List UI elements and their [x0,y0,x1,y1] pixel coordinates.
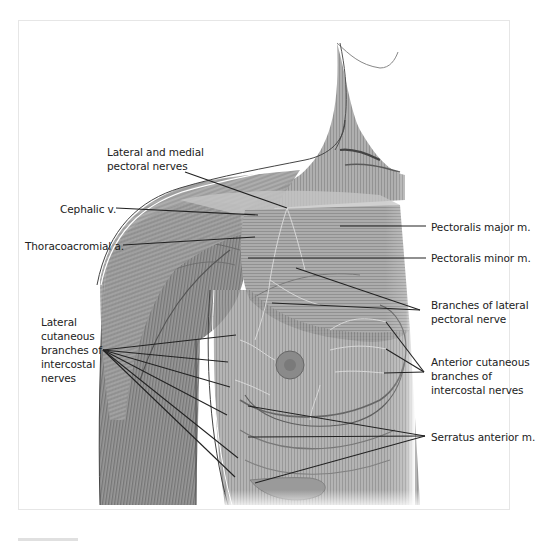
label-cephalic-v: Cephalic v. [60,202,116,216]
label-lateral-medial-pectoral: Lateral and medial pectoral nerves [107,145,204,173]
label-branches-lateral-pectoral: Branches of lateral pectoral nerve [431,298,528,326]
label-pectoralis-minor: Pectoralis minor m. [431,251,531,265]
label-serratus-anterior: Serratus anterior m. [431,430,535,444]
label-anterior-cutaneous: Anterior cutaneous branches of intercost… [431,355,530,397]
anatomy-illustration [0,0,544,541]
label-pectoralis-major: Pectoralis major m. [431,220,530,234]
label-lateral-cutaneous: Lateral cutaneous branches of intercosta… [41,315,102,385]
label-thoracoacromial-a: Thoracoacromial a. [25,239,124,253]
